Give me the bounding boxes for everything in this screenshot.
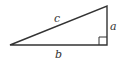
right-angle-marker (99, 37, 107, 45)
right-triangle-diagram: c a b (0, 0, 124, 64)
vertical-leg-label: a (110, 20, 117, 33)
hypotenuse-label: c (54, 12, 60, 25)
horizontal-leg-label: b (55, 48, 62, 61)
